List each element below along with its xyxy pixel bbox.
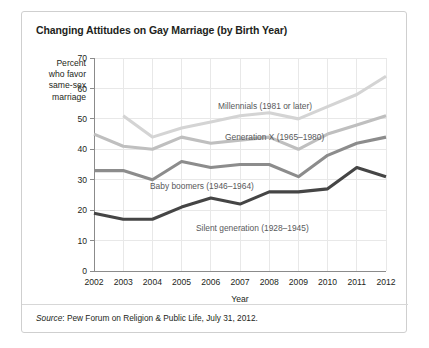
- plot-area: 7060504030201002002200320042005200620072…: [22, 12, 408, 302]
- footer-divider: [22, 304, 408, 305]
- source-note: Source: Pew Forum on Religion & Public L…: [36, 313, 258, 323]
- series-label: Silent generation (1928–1945): [196, 223, 309, 233]
- y-tick-label: 70: [77, 53, 87, 63]
- y-tick-label: 20: [77, 205, 87, 215]
- y-tick-label: 30: [77, 175, 87, 185]
- series-label: Baby boomers (1946–1964): [150, 181, 254, 191]
- x-tick-label: 2003: [114, 277, 133, 287]
- x-tick-label: 2008: [260, 277, 279, 287]
- y-tick-label: 60: [77, 84, 87, 94]
- x-tick-label: 2009: [289, 277, 308, 287]
- source-label: Source: [36, 313, 62, 323]
- x-tick-label: 2005: [172, 277, 191, 287]
- x-tick-label: 2011: [348, 277, 367, 287]
- series-label: Generation X (1965–1980): [225, 132, 324, 142]
- x-tick-label: 2010: [318, 277, 337, 287]
- x-axis-title: Year: [231, 294, 249, 302]
- y-tick-label: 0: [82, 266, 87, 276]
- source-value: : Pew Forum on Religion & Public Life, J…: [62, 313, 258, 323]
- x-tick-label: 2012: [376, 277, 395, 287]
- x-tick-label: 2006: [201, 277, 220, 287]
- x-tick-label: 2002: [84, 277, 103, 287]
- chart-card: Changing Attitudes on Gay Marriage (by B…: [21, 11, 407, 333]
- x-tick-label: 2004: [143, 277, 162, 287]
- line-chart: 7060504030201002002200320042005200620072…: [22, 12, 408, 302]
- x-tick-label: 2007: [230, 277, 249, 287]
- y-tick-label: 10: [77, 236, 87, 246]
- series-label: Millennials (1981 or later): [218, 101, 312, 111]
- y-tick-label: 40: [77, 144, 87, 154]
- y-tick-label: 50: [77, 114, 87, 124]
